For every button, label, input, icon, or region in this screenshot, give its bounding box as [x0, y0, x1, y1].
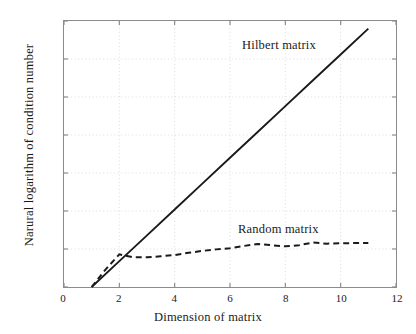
data-series-layer	[64, 21, 396, 287]
x-tick-label-8: 8	[266, 293, 306, 304]
chart-figure: 05101520253035 024681012 Dimension of ma…	[0, 0, 416, 334]
x-tick-label-10: 10	[321, 293, 361, 304]
x-tick-label-4: 4	[154, 293, 194, 304]
annotation-hilbert-matrix: Hilbert matrix	[242, 38, 316, 53]
plot-area	[63, 20, 397, 288]
y-axis-label: Narural logarithm of condition number	[22, 11, 37, 279]
x-axis-tick-labels: 024681012	[0, 293, 416, 309]
x-tick-label-2: 2	[99, 293, 139, 304]
x-tick-label-6: 6	[210, 293, 250, 304]
annotation-random-matrix: Random matrix	[238, 222, 319, 237]
x-axis-label: Dimension of matrix	[0, 310, 416, 325]
x-tick-label-0: 0	[43, 293, 83, 304]
y-axis-label-wrapper: Narural logarithm of condition number	[22, 11, 40, 279]
x-tick-label-12: 12	[377, 293, 416, 304]
